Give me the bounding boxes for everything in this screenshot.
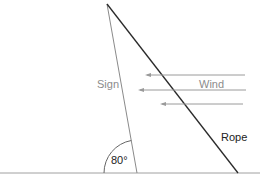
sign-label: Sign	[97, 78, 119, 90]
wind-label: Wind	[199, 78, 224, 90]
sign-rope-wind-diagram: Sign Wind Rope 80°	[0, 0, 260, 179]
wind-arrows	[138, 73, 246, 106]
wind-arrow-icon	[145, 73, 245, 77]
rope-label: Rope	[221, 131, 247, 143]
wind-arrow-icon	[160, 102, 243, 106]
wind-arrow-icon	[138, 88, 246, 92]
angle-label: 80°	[111, 154, 128, 166]
